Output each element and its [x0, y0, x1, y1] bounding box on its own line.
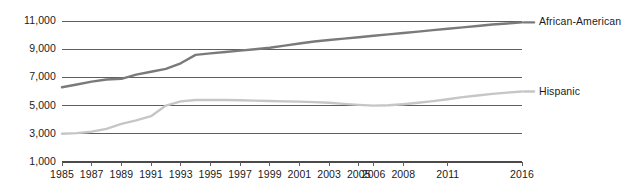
- gridlines: [62, 21, 522, 162]
- y-axis-tick-label: 1,000: [29, 155, 56, 167]
- y-axis-tick-label: 7,000: [29, 70, 56, 82]
- line-chart: 11,0009,0007,0005,0003,0001,000 19851987…: [0, 0, 639, 195]
- series-label-leaders: [524, 22, 534, 91]
- y-axis-tick-label: 9,000: [29, 42, 56, 54]
- series-label-hispanic: Hispanic: [539, 85, 580, 97]
- data-series: [62, 22, 522, 133]
- x-axis-tick-label: 2008: [383, 168, 423, 180]
- x-axis-tick-label: 2011: [428, 168, 468, 180]
- series-line-hispanic: [62, 92, 522, 134]
- x-axis-tick-label: 2016: [502, 168, 542, 180]
- series-label-african-american: African-American: [539, 15, 621, 27]
- y-axis-tick-label: 11,000: [24, 14, 56, 26]
- y-axis-tick-label: 3,000: [29, 127, 56, 139]
- chart-plot-area: [0, 0, 639, 195]
- y-axis-tick-label: 5,000: [29, 99, 56, 111]
